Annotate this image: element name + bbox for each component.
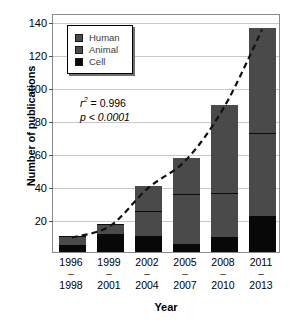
y-tick-label: 20	[7, 215, 53, 227]
y-tick-label: 60	[7, 149, 53, 161]
x-tick-end-year: 2007	[173, 279, 196, 291]
legend-swatch-cell	[75, 58, 83, 66]
x-axis-ticks: 1996–19981999–20012002–20042005–20072008…	[52, 256, 280, 302]
legend-swatch-human	[75, 34, 83, 42]
x-tick-end-year: 2004	[135, 279, 158, 291]
x-tick-end-year: 2013	[249, 279, 272, 291]
legend-label: Human	[89, 32, 120, 43]
x-tick-end-year: 2001	[97, 279, 120, 291]
y-tick-label: 40	[7, 182, 53, 194]
y-tick-label: 120	[7, 50, 53, 62]
x-tick-label-2005–2007: 2005–2007	[173, 256, 196, 292]
statistics-annotation: r2 = 0.996 p < 0.0001	[80, 93, 130, 124]
x-tick-start-year: 2002	[135, 256, 158, 268]
y-tick-label: 80	[7, 116, 53, 128]
x-axis-title: Year	[52, 301, 280, 313]
p-value-annotation: p < 0.0001	[80, 110, 130, 124]
x-tick-end-year: 2010	[211, 279, 234, 291]
x-tick-label-2008–2010: 2008–2010	[211, 256, 234, 292]
y-tick-label: 100	[7, 83, 53, 95]
x-tick-start-year: 2008	[211, 256, 234, 268]
x-tick-label-1996–1998: 1996–1998	[59, 256, 82, 292]
legend-label: Cell	[89, 56, 105, 67]
r-squared-value: = 0.996	[88, 97, 126, 109]
legend-item-cell: Cell	[75, 56, 120, 67]
x-tick-dash: –	[135, 269, 158, 279]
x-tick-end-year: 1998	[59, 279, 82, 291]
x-tick-label-2002–2004: 2002–2004	[135, 256, 158, 292]
legend-item-human: Human	[75, 32, 120, 43]
legend: HumanAnimalCell	[67, 25, 133, 74]
x-tick-start-year: 1999	[97, 256, 120, 268]
x-tick-dash: –	[173, 269, 196, 279]
y-tick-label: 140	[7, 17, 53, 29]
legend-swatch-animal	[75, 46, 83, 54]
x-tick-label-1999–2001: 1999–2001	[97, 256, 120, 292]
x-tick-start-year: 2011	[250, 256, 273, 268]
x-tick-dash: –	[97, 269, 120, 279]
plot-area: 20406080100120140 r2 = 0.996 p < 0.0001 …	[52, 14, 280, 253]
x-tick-start-year: 1996	[59, 256, 82, 268]
x-tick-dash: –	[59, 269, 82, 279]
x-tick-label-2011–2013: 2011–2013	[249, 256, 272, 292]
legend-label: Animal	[89, 44, 118, 55]
publications-bar-chart: Number of publications 20406080100120140…	[0, 0, 296, 324]
x-tick-dash: –	[211, 269, 234, 279]
x-tick-dash: –	[249, 269, 272, 279]
x-tick-start-year: 2005	[173, 256, 196, 268]
r-squared-annotation: r2 = 0.996	[80, 93, 130, 110]
legend-item-animal: Animal	[75, 44, 120, 55]
